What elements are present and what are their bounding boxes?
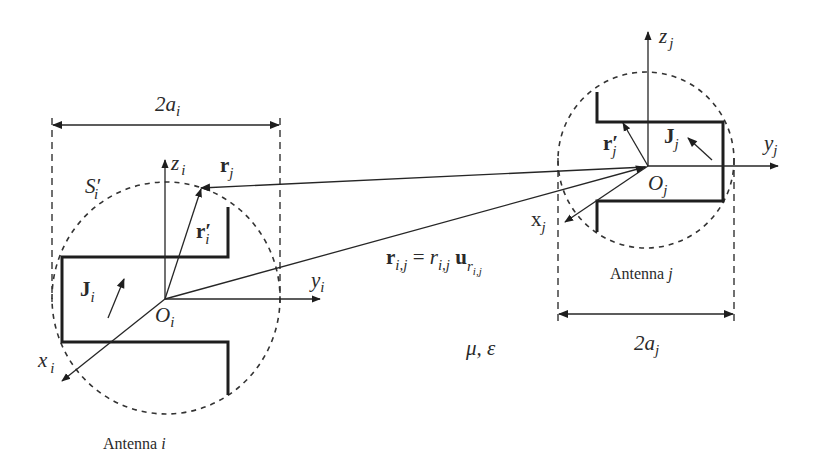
antenna-j-outline [597, 92, 723, 232]
antenna-j-width-label: 2aj [634, 331, 659, 358]
source-vector-r-prime-j [623, 123, 648, 166]
antenna-j-caption: Antenna j [610, 265, 673, 283]
antenna-i-z-axis-label: zi [170, 151, 185, 178]
antenna-j-bounding-sphere [558, 72, 734, 248]
antenna-i-width-label: 2ai [155, 92, 180, 119]
antenna-i-x-axis-label: xi [37, 348, 55, 376]
current-arrow-j-i [108, 279, 124, 318]
current-j-i-label: Ji [80, 277, 95, 305]
source-vector-r-prime-i-label: r′i [196, 219, 211, 247]
connecting-vectors: ri,j = ri,j uri,j [165, 167, 646, 299]
medium-parameters-label: μ, ε [465, 336, 496, 360]
antenna-j-x-axis [565, 166, 648, 222]
source-vector-r-prime-j-label: r′j [603, 131, 618, 159]
diagram-svg: 2ai zi S′i rj r′i Ji Oi yi xi Antenna i … [0, 0, 814, 472]
antenna-i-x-axis [62, 299, 165, 381]
observation-vector-r-j-label: rj [220, 153, 234, 181]
origin-o-j-label: Oj [648, 171, 667, 198]
surface-s-prime-i-label: S′i [85, 174, 101, 202]
source-vector-r-prime-i [165, 189, 201, 299]
origin-o-i-label: Oi [155, 303, 174, 330]
antenna-j-x-axis-label: xj [531, 207, 546, 235]
antenna-i-y-axis-label: yi [309, 268, 325, 295]
antenna-i-caption: Antenna i [103, 435, 166, 452]
antenna-j-z-axis-label: zj [658, 24, 673, 51]
antenna-j-y-axis-label: yj [762, 131, 778, 158]
current-j-j-label: Jj [664, 124, 679, 152]
separation-vector-equation: ri,j = ri,j uri,j [386, 245, 482, 277]
antenna-j-group: zj r′j Jj yj Oj xj Antenna j 2aj [531, 24, 778, 358]
antenna-coupling-diagram: 2ai zi S′i rj r′i Ji Oi yi xi Antenna i … [0, 0, 814, 472]
antenna-i-group: 2ai zi S′i rj r′i Ji Oi yi xi Antenna i [37, 92, 325, 452]
current-arrow-j-j [688, 138, 712, 160]
